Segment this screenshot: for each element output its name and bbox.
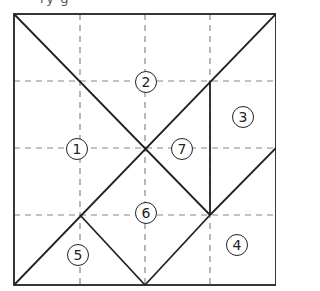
piece-label-6: 6	[135, 202, 157, 224]
piece-label-2: 2	[135, 71, 157, 93]
piece-label-1: 1	[66, 138, 88, 160]
piece-label-4: 4	[226, 234, 248, 256]
piece-label-3: 3	[232, 106, 254, 128]
piece-label-7: 7	[171, 138, 193, 160]
piece-label-5: 5	[67, 244, 89, 266]
